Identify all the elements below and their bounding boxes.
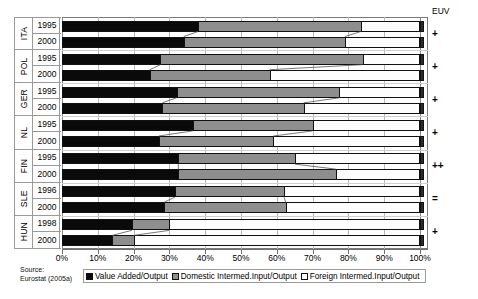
category-group-sle: SLE19962000 [15, 183, 61, 216]
bar-segment-for [286, 202, 420, 213]
gridline [384, 17, 385, 249]
bar-segment-for [273, 136, 420, 147]
bar-segment-va [62, 103, 162, 114]
bar-end-cap [420, 219, 424, 230]
bar-segment-for [295, 153, 420, 164]
bar-segment-dom [164, 202, 286, 213]
bar-segment-for [284, 186, 420, 197]
euv-value: + [432, 127, 458, 138]
category-group-ita: ITA19952000 [15, 17, 61, 50]
bar-segment-for [134, 235, 420, 246]
gridline [98, 17, 99, 249]
bar-row [62, 54, 420, 65]
year-label: 1995 [33, 18, 61, 34]
legend-label: Foreign Intermed.Input/Output [310, 272, 420, 281]
bar-segment-dom [162, 103, 303, 114]
legend-swatch-icon [86, 273, 93, 280]
bar-end-cap [420, 70, 424, 81]
euv-value: ++ [432, 160, 458, 171]
chart-legend: Value Added/OutputDomestic Intermed.Inpu… [83, 269, 426, 283]
euv-value: + [432, 28, 458, 39]
bar-row [62, 136, 420, 147]
x-tick-label: 60% [268, 253, 285, 263]
bar-segment-for [169, 219, 420, 230]
bar-segment-for [336, 169, 420, 180]
row-separator [62, 83, 428, 84]
country-label: FIN [15, 150, 32, 182]
x-tick-label: 30% [161, 253, 178, 263]
bar-segment-for [270, 70, 420, 81]
bar-row [62, 21, 420, 32]
year-labels: 19952000 [32, 116, 61, 148]
x-tick-label: 80% [340, 253, 357, 263]
bar-end-cap [420, 103, 424, 114]
bar-end-cap [420, 87, 424, 98]
year-label: 1998 [33, 216, 61, 232]
bar-segment-va [62, 136, 159, 147]
bar-segment-dom [159, 136, 274, 147]
bar-segment-dom [198, 21, 361, 32]
source-line-1: Source: [20, 265, 80, 274]
year-label: 1995 [33, 116, 61, 132]
euv-value: = [432, 193, 458, 204]
bar-segment-va [62, 186, 175, 197]
bar-segment-va [62, 54, 160, 65]
bar-end-cap [420, 120, 424, 131]
bar-segment-for [313, 120, 420, 131]
country-label: NL [15, 116, 32, 148]
euv-value: + [432, 226, 458, 237]
bar-end-cap [420, 21, 424, 32]
bar-segment-dom [150, 70, 270, 81]
legend-label: Domestic Intermed.Input/Output [181, 272, 297, 281]
bar-row [62, 120, 420, 131]
bar-row [62, 202, 420, 213]
bar-segment-va [62, 169, 178, 180]
bar-end-cap [420, 37, 424, 48]
bar-end-cap [420, 153, 424, 164]
legend-swatch-icon [172, 273, 179, 280]
bar-segment-dom [178, 153, 294, 164]
bar-segment-va [62, 202, 164, 213]
bar-segment-va [62, 219, 132, 230]
x-tick-label: 40% [197, 253, 214, 263]
bar-end-cap [420, 202, 424, 213]
gridline [205, 17, 206, 249]
country-label: SLE [15, 183, 32, 215]
gridline [241, 17, 242, 249]
plot-area [62, 17, 428, 249]
year-label: 1996 [33, 183, 61, 199]
euv-column: EUV ++++++=+ [432, 6, 472, 249]
x-tick-label: 0% [56, 253, 68, 263]
legend-item-for: Foreign Intermed.Input/Output [301, 272, 420, 281]
bar-segment-va [62, 21, 198, 32]
category-group-pol: POL19952000 [15, 50, 61, 83]
year-label: 1995 [33, 50, 61, 66]
bar-row [62, 103, 420, 114]
bar-segment-for [304, 103, 420, 114]
bar-segment-va [62, 87, 177, 98]
bar-row [62, 87, 420, 98]
gridline [62, 17, 63, 249]
year-labels: 19952000 [32, 18, 61, 49]
year-labels: 19952000 [32, 50, 61, 82]
gridline [277, 17, 278, 249]
bar-segment-for [361, 21, 420, 32]
gridline [134, 17, 135, 249]
bar-segment-for [339, 87, 420, 98]
legend-item-dom: Domestic Intermed.Input/Output [172, 272, 297, 281]
bar-segment-va [62, 235, 112, 246]
year-labels: 19962000 [32, 183, 61, 215]
x-tick-label: 10% [89, 253, 106, 263]
bar-segment-va [62, 70, 150, 81]
bar-segment-for [345, 37, 420, 48]
category-axis: ITA19952000POL19952000GER19952000NL19952… [14, 17, 60, 249]
x-tick-label: 100% [409, 253, 431, 263]
country-label: GER [15, 83, 32, 115]
bar-row [62, 37, 420, 48]
x-tick-label: 50% [232, 253, 249, 263]
row-separator [62, 50, 428, 51]
gridline [169, 17, 170, 249]
bar-segment-dom [193, 120, 313, 131]
bar-segment-va [62, 153, 178, 164]
bar-end-cap [420, 235, 424, 246]
